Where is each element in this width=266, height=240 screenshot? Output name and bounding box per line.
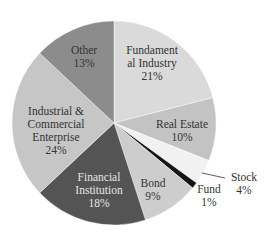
slice-label-industrial-commercial-enterprise: Industrial &CommercialEnterprise24% — [28, 105, 85, 157]
slice-label-other: Other13% — [71, 44, 97, 70]
slice-label-fund: Fund1% — [197, 183, 221, 209]
slice-label-bond: Bond9% — [141, 177, 166, 203]
slice-label-stock: Stock4% — [231, 171, 257, 197]
slice-label-real-estate: Real Estate10% — [156, 118, 208, 144]
leader-line — [202, 173, 225, 178]
slice-label-financial-institution: FinancialInstitution18% — [75, 171, 122, 210]
slice-label-fundamental-industry: Fundamental Industry21% — [126, 44, 178, 83]
